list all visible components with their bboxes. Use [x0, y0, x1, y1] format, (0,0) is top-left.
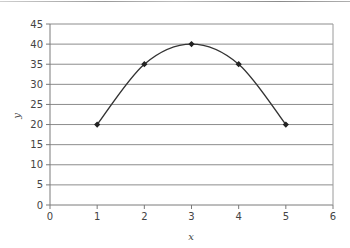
y-tick-label: 45: [30, 19, 43, 30]
y-tick-label: 35: [30, 59, 43, 70]
x-tick-label: 5: [283, 211, 289, 222]
y-tick-label: 40: [30, 39, 43, 50]
x-tick-label: 4: [235, 211, 241, 222]
y-axis-ticks: 051015202530354045: [30, 19, 50, 211]
data-point-marker: [188, 41, 194, 47]
y-tick-label: 20: [30, 119, 43, 130]
x-axis-ticks: 0123456: [47, 205, 336, 222]
line-chart: 051015202530354045 0123456 x y: [0, 0, 350, 248]
y-tick-label: 25: [30, 99, 43, 110]
x-tick-label: 2: [141, 211, 147, 222]
y-tick-label: 0: [37, 200, 43, 211]
y-tick-label: 30: [30, 79, 43, 90]
horizontal-gridlines: [50, 24, 333, 185]
y-tick-label: 15: [30, 139, 43, 150]
x-tick-label: 3: [188, 211, 194, 222]
y-tick-label: 5: [37, 179, 43, 190]
x-tick-label: 0: [47, 211, 53, 222]
y-tick-label: 10: [30, 159, 43, 170]
axes: [50, 24, 333, 205]
x-axis-title: x: [188, 231, 194, 242]
x-tick-label: 6: [330, 211, 336, 222]
x-tick-label: 1: [94, 211, 100, 222]
y-axis-title: y: [11, 113, 22, 120]
